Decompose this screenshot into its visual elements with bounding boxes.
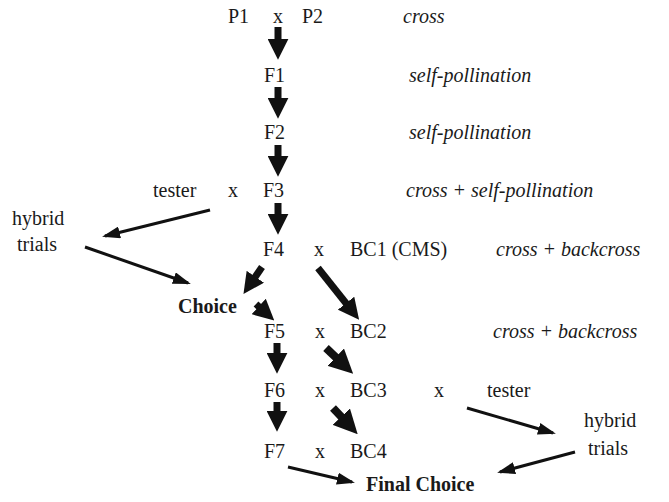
node-hybrid-right-line2: trials bbox=[588, 436, 628, 460]
node-hybrid-left-line2: trials bbox=[17, 232, 57, 256]
annotation-cross-self-pollination: cross + self-pollination bbox=[406, 178, 593, 202]
node-f1: F1 bbox=[264, 63, 285, 87]
annotation-cross-backcross-f5: cross + backcross bbox=[493, 319, 637, 343]
cross-symbol: x bbox=[314, 237, 324, 261]
node-tester-bottom: tester bbox=[487, 378, 530, 402]
cross-symbol: x bbox=[315, 319, 325, 343]
cross-symbol: x bbox=[434, 378, 444, 402]
annotation-self-pollination-f1: self-pollination bbox=[409, 63, 531, 87]
node-choice: Choice bbox=[178, 294, 237, 318]
arrow-hybrid-left-to-choice bbox=[85, 247, 188, 283]
arrow-f7-to-final bbox=[288, 467, 352, 482]
node-final-choice: Final Choice bbox=[366, 472, 474, 496]
node-bc3: BC3 bbox=[350, 378, 387, 402]
node-p1: P1 bbox=[228, 4, 249, 28]
node-f6: F6 bbox=[264, 378, 285, 402]
node-hybrid-left-line1: hybrid bbox=[12, 206, 64, 230]
arrow-testcross-to-hybrid-right bbox=[467, 408, 553, 433]
cross-symbol: x bbox=[273, 4, 283, 28]
arrow-choice-to-f5 bbox=[256, 304, 267, 314]
node-tester-top: tester bbox=[153, 178, 196, 202]
annotation-cross-backcross-f4: cross + backcross bbox=[496, 237, 640, 261]
node-f2: F2 bbox=[264, 120, 285, 144]
arrow-bc3-to-bc4 bbox=[333, 408, 350, 426]
node-p2: P2 bbox=[302, 4, 323, 28]
arrow-bc1-to-bc2 bbox=[318, 268, 353, 312]
node-f4: F4 bbox=[263, 237, 284, 261]
node-f5: F5 bbox=[264, 319, 285, 343]
arrow-bc2-to-bc3 bbox=[326, 348, 345, 366]
cross-symbol: x bbox=[315, 439, 325, 463]
node-bc1-cms: BC1 (CMS) bbox=[350, 237, 447, 261]
node-f7: F7 bbox=[264, 439, 285, 463]
cross-symbol: x bbox=[315, 378, 325, 402]
arrow-hybrid-right-to-final bbox=[500, 452, 575, 472]
node-hybrid-right-line1: hybrid bbox=[584, 408, 636, 432]
annotation-cross: cross bbox=[403, 4, 444, 28]
arrow-testcross-to-hybrid-left bbox=[105, 210, 210, 236]
node-bc4: BC4 bbox=[350, 439, 387, 463]
arrow-f4-to-choice bbox=[249, 267, 262, 286]
cross-symbol: x bbox=[228, 178, 238, 202]
node-bc2: BC2 bbox=[350, 319, 387, 343]
node-f3: F3 bbox=[263, 178, 284, 202]
annotation-self-pollination-f2: self-pollination bbox=[409, 120, 531, 144]
